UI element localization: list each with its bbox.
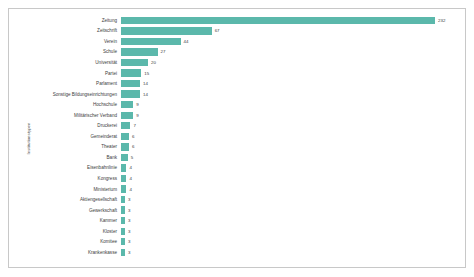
bar-category-label: Parlament [35, 81, 121, 86]
bar-track: 3 [121, 205, 459, 216]
bar-track: 6 [121, 142, 459, 153]
bar-row: Druckerei7 [35, 120, 459, 131]
bar-row: Hochschule9 [35, 99, 459, 110]
bar-track: 15 [121, 68, 459, 79]
bar-category-label: Universität [35, 60, 121, 65]
bar-value-label: 9 [133, 113, 138, 118]
bar-track: 3 [121, 194, 459, 205]
bar-value-label: 7 [130, 123, 135, 128]
bar-track: 67 [121, 26, 459, 37]
bar-category-label: Bank [35, 155, 121, 160]
bar-track: 7 [121, 120, 459, 131]
bar [121, 69, 141, 76]
bar-value-label: 6 [129, 144, 134, 149]
bar-category-label: Theater [35, 144, 121, 149]
y-axis-title-label: Institutionstypen [27, 122, 32, 154]
bar-track: 4 [121, 184, 459, 195]
bar [121, 143, 129, 150]
bar-value-label: 3 [125, 239, 130, 244]
bar-value-label: 6 [129, 134, 134, 139]
bar [121, 27, 212, 34]
bar-track: 14 [121, 89, 459, 100]
bar-track: 27 [121, 47, 459, 58]
y-axis-title: Institutionstypen [23, 9, 35, 267]
bar-value-label: 20 [148, 60, 156, 65]
bar-value-label: 5 [128, 155, 133, 160]
bar-category-label: Gewerkschaft [35, 208, 121, 213]
bar-value-label: 3 [125, 250, 130, 255]
bar-track: 5 [121, 152, 459, 163]
bar [121, 122, 130, 129]
bar-track: 232 [121, 15, 459, 26]
bar-row: Gewerkschaft3 [35, 205, 459, 216]
bar-value-label: 9 [133, 102, 138, 107]
bar-track: 4 [121, 163, 459, 174]
bar-track: 3 [121, 226, 459, 237]
bar-row: Kammer3 [35, 215, 459, 226]
bar-value-label: 3 [125, 218, 130, 223]
bar-row: Partei15 [35, 68, 459, 79]
bar-category-label: Verein [35, 39, 121, 44]
bar-category-label: Eisenbahnlinie [35, 165, 121, 170]
bar [121, 154, 128, 161]
bar [121, 101, 133, 108]
bar-row: Verein44 [35, 36, 459, 47]
bar-row: Schule27 [35, 47, 459, 58]
bar [121, 17, 435, 24]
bar-value-label: 4 [126, 187, 131, 192]
bar-category-label: Druckerei [35, 123, 121, 128]
bar-value-label: 67 [212, 28, 220, 33]
bar-row: Krankenkasse3 [35, 247, 459, 258]
chart-panel: Institutionstypen Zeitung232Zeitschrift6… [8, 8, 466, 268]
bar-category-label: Hochschule [35, 102, 121, 107]
bar-category-label: Partei [35, 71, 121, 76]
bar-value-label: 3 [125, 208, 130, 213]
bar-category-label: Aktiengesellschaft [35, 197, 121, 202]
bar-value-label: 14 [140, 92, 148, 97]
bar-category-label: Kongress [35, 176, 121, 181]
bar [121, 112, 133, 119]
bar-category-label: Komitee [35, 239, 121, 244]
bar-value-label: 3 [125, 229, 130, 234]
bar [121, 38, 181, 45]
bar-row: Zeitung232 [35, 15, 459, 26]
bar-value-label: 4 [126, 165, 131, 170]
bar-value-label: 4 [126, 176, 131, 181]
bar-value-label: 3 [125, 197, 130, 202]
plot-area: Institutionstypen Zeitung232Zeitschrift6… [9, 9, 465, 267]
bar-row: Kongress4 [35, 173, 459, 184]
bar-track: 6 [121, 131, 459, 142]
bar-track: 3 [121, 215, 459, 226]
bar [121, 90, 140, 97]
bar-row: Aktiengesellschaft3 [35, 194, 459, 205]
bar-category-label: Ministerium [35, 187, 121, 192]
bar-category-label: Zeitschrift [35, 28, 121, 33]
bar-track: 20 [121, 57, 459, 68]
bar-track: 3 [121, 236, 459, 247]
bar-row: Sonstige Bildungseinrichtungen14 [35, 89, 459, 100]
bar-value-label: 232 [435, 18, 445, 23]
bar-row: Universität20 [35, 57, 459, 68]
bar-category-label: Zeitung [35, 18, 121, 23]
bar-value-label: 15 [141, 71, 149, 76]
bar-value-label: 14 [140, 81, 148, 86]
bar-row: Militärischer Verband9 [35, 110, 459, 121]
bar [121, 59, 148, 66]
bar-category-label: Militärischer Verband [35, 113, 121, 118]
bar-row: Parlament14 [35, 78, 459, 89]
bar [121, 133, 129, 140]
bar-category-label: Krankenkasse [35, 250, 121, 255]
bar-track: 4 [121, 173, 459, 184]
bar-row: Eisenbahnlinie4 [35, 163, 459, 174]
bar-row: Kloster3 [35, 226, 459, 237]
bar-track: 3 [121, 247, 459, 258]
bar-value-label: 44 [181, 39, 189, 44]
bar-track: 44 [121, 36, 459, 47]
bar-track: 9 [121, 110, 459, 121]
bar-row: Ministerium4 [35, 184, 459, 195]
bar-row: Bank5 [35, 152, 459, 163]
bar-track: 9 [121, 99, 459, 110]
bar-track: 14 [121, 78, 459, 89]
bar-row: Zeitschrift67 [35, 26, 459, 37]
bar-category-label: Sonstige Bildungseinrichtungen [35, 92, 121, 97]
